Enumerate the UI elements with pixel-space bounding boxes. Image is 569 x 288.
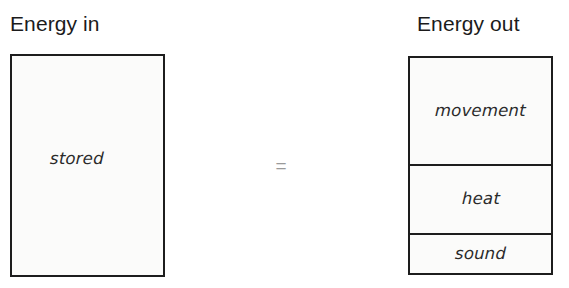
energy-diagram: Energy in Energy out stored = movement h… — [0, 0, 569, 288]
segment-label: stored — [50, 151, 104, 168]
segment-label: sound — [455, 246, 507, 263]
segment-label: heat — [461, 191, 500, 208]
energy-in-heading: Energy in — [10, 13, 100, 34]
energy-out-segment-movement: movement — [410, 58, 551, 164]
energy-out-bar: movement heat sound — [408, 56, 553, 275]
energy-out-heading: Energy out — [417, 13, 520, 34]
energy-in-bar: stored — [10, 54, 165, 277]
energy-out-segment-heat: heat — [410, 164, 551, 234]
equals-sign: = — [270, 152, 292, 178]
energy-out-segment-sound: sound — [410, 233, 551, 273]
segment-label: movement — [435, 103, 526, 120]
energy-in-segment-stored: stored — [12, 56, 163, 275]
